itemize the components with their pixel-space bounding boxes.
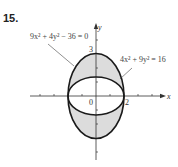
ellipse-diagram: 9x² + 4y² − 36 = 0 4x² + 9y² = 16 y x 3 … (0, 0, 178, 167)
inner-equation-label: 4x² + 9y² = 16 (120, 55, 166, 64)
outer-leader-line (48, 44, 74, 66)
inner-leader-line (120, 68, 132, 79)
outer-equation-label: 9x² + 4y² − 36 = 0 (30, 32, 88, 41)
origin-label: 0 (89, 98, 93, 107)
y-tick-label: 3 (89, 45, 93, 54)
x-tick-label: 2 (125, 98, 129, 107)
y-axis-label: y (97, 23, 102, 32)
x-axis-label: x (166, 92, 171, 101)
